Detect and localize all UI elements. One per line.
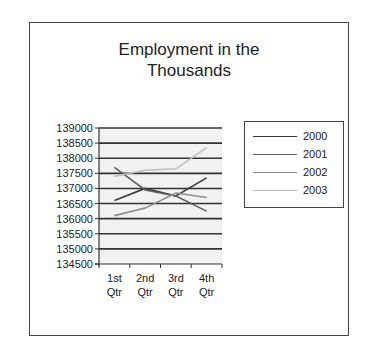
chart-frame: Employment in the Thousands 134500135000… — [29, 22, 349, 336]
legend-swatch-2000 — [253, 136, 297, 137]
legend-label: 2003 — [303, 182, 327, 198]
legend-item-2001: 2001 — [253, 146, 339, 162]
y-tick-label: 137500 — [56, 167, 93, 179]
y-tick-label: 139000 — [56, 122, 93, 134]
legend-swatch-2003 — [253, 190, 297, 191]
y-tick-label: 135500 — [56, 228, 93, 240]
y-tick-label: 136000 — [56, 213, 93, 225]
y-tick-label: 134500 — [56, 258, 93, 270]
legend-swatch-2001 — [253, 154, 297, 155]
x-tick-label: 4th — [199, 272, 214, 284]
legend-label: 2000 — [303, 128, 327, 144]
y-tick-label: 138500 — [56, 137, 93, 149]
x-tick-label: Qtr — [107, 286, 123, 298]
legend-label: 2001 — [303, 146, 327, 162]
legend-item-2003: 2003 — [253, 182, 339, 198]
y-tick-label: 136500 — [56, 198, 93, 210]
x-tick-label: Qtr — [199, 286, 215, 298]
legend: 2000 2001 2002 2003 — [244, 121, 344, 208]
plot-background — [99, 128, 222, 264]
x-tick-label: Qtr — [137, 286, 153, 298]
x-tick-label: 3rd — [168, 272, 184, 284]
y-tick-label: 138000 — [56, 152, 93, 164]
legend-item-2000: 2000 — [253, 128, 339, 144]
x-tick-label: 2nd — [136, 272, 154, 284]
y-tick-label: 135000 — [56, 243, 93, 255]
x-tick-label: 1st — [107, 272, 122, 284]
legend-label: 2002 — [303, 164, 327, 180]
legend-swatch-2002 — [253, 172, 297, 173]
legend-item-2002: 2002 — [253, 164, 339, 180]
y-tick-label: 137000 — [56, 182, 93, 194]
x-tick-label: Qtr — [168, 286, 184, 298]
